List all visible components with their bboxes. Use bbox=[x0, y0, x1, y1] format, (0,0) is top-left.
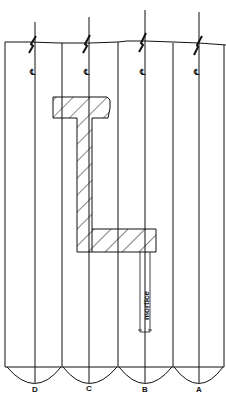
mortice-label: mortice bbox=[142, 291, 151, 320]
plank-label-c: C bbox=[86, 384, 92, 393]
centerline-symbol: ℄ bbox=[83, 68, 90, 77]
plank-arc bbox=[63, 367, 117, 384]
plank-diagram: ℄ ℄ ℄ ℄ mortice D C B A bbox=[0, 0, 226, 396]
hatched-section bbox=[53, 97, 156, 252]
plank-label-b: B bbox=[142, 385, 148, 394]
plank-label-a: A bbox=[196, 385, 202, 394]
break-mark-icon bbox=[194, 36, 202, 55]
plank-arc bbox=[7, 367, 61, 384]
plank-label-d: D bbox=[32, 385, 38, 394]
centerline-symbol: ℄ bbox=[139, 68, 146, 77]
centerline-symbol: ℄ bbox=[193, 68, 200, 77]
top-edge-line bbox=[5, 41, 226, 45]
centerline-symbol: ℄ bbox=[29, 68, 36, 77]
